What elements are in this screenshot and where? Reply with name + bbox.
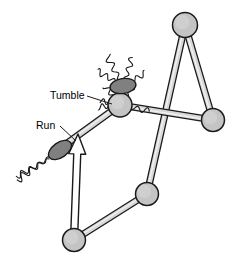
- trajectory-node-bottom: [63, 229, 86, 252]
- trajectory-node-tumble: [108, 93, 132, 117]
- run-tumble-diagram: TumbleRun: [0, 0, 233, 267]
- label-layer: TumbleRun: [36, 89, 85, 131]
- diagram-canvas: TumbleRun: [0, 0, 233, 267]
- trajectory-node-right: [202, 109, 225, 132]
- trajectory-rod-apex-right: [182, 24, 216, 121]
- run-direction-arrow: [69, 134, 86, 240]
- label-run: Run: [36, 119, 55, 131]
- trajectory-node-apex: [173, 13, 198, 38]
- bacterium-tumble-state: [109, 77, 137, 95]
- tumble-leader: [87, 96, 112, 104]
- label-tumble: Tumble: [50, 89, 85, 101]
- trajectory-node-lower-right: [136, 183, 159, 206]
- arrow-layer: [69, 134, 86, 240]
